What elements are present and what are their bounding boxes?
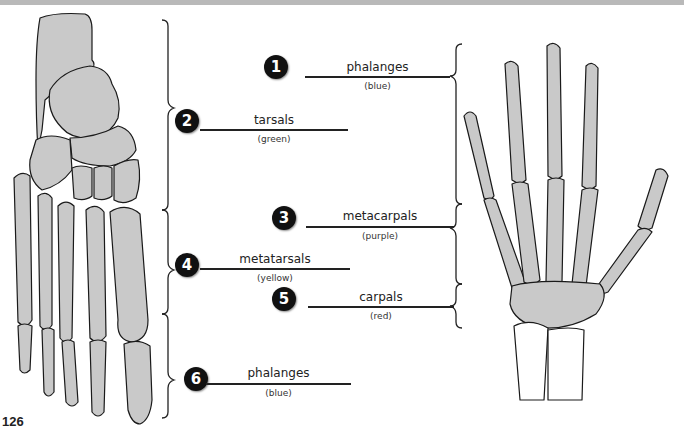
label-line-2: [200, 129, 348, 131]
label-line-6: [206, 383, 351, 385]
label-color-hint-6: (blue): [206, 388, 351, 398]
label-name-2: tarsals: [200, 113, 348, 127]
label-name-3: metacarpals: [306, 209, 454, 223]
metatarsals-bracket: [162, 210, 174, 314]
label-badge-2: 2: [175, 109, 199, 133]
label-color-hint-4: (yellow): [200, 273, 350, 283]
page-number: 126: [2, 414, 24, 429]
label-badge-5: 5: [272, 287, 296, 311]
tarsals-bracket: [162, 20, 174, 210]
label-badge-6: 6: [184, 367, 208, 391]
label-line-3: [306, 226, 454, 228]
label-line-4: [200, 268, 350, 270]
label-line-1: [305, 76, 450, 78]
label-badge-3: 3: [272, 206, 296, 230]
label-color-hint-2: (green): [200, 134, 348, 144]
label-name-1: phalanges: [305, 60, 450, 74]
label-color-hint-1: (blue): [305, 81, 450, 91]
label-color-hint-5: (red): [308, 311, 454, 321]
label-badge-1: 1: [264, 55, 288, 79]
foot-skeleton-illustration: [14, 14, 152, 425]
foot-phalanges-bracket: [162, 314, 174, 418]
label-name-4: metatarsals: [200, 252, 350, 266]
label-name-6: phalanges: [206, 366, 351, 380]
label-line-5: [308, 306, 454, 308]
label-badge-4: 4: [175, 253, 199, 277]
label-name-5: carpals: [308, 290, 454, 304]
label-color-hint-3: (purple): [306, 231, 454, 241]
hand-phalanges-bracket: [450, 44, 462, 204]
hand-skeleton-illustration: [464, 43, 668, 400]
